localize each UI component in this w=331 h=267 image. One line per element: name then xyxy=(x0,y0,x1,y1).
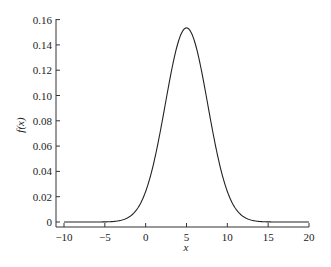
y-tick-label: 0.04 xyxy=(33,165,53,177)
x-tick-label: 10 xyxy=(222,231,234,243)
x-tick-label: 0 xyxy=(143,231,149,243)
y-tick-label: 0 xyxy=(47,216,53,228)
y-tick-label: 0.14 xyxy=(33,39,53,51)
chart: 00.020.040.060.080.100.120.140.16 −10−50… xyxy=(0,0,331,267)
x-tick-label: 20 xyxy=(304,231,316,243)
y-axis-label: f(x) xyxy=(14,117,27,133)
y-tick-label: 0.06 xyxy=(33,140,53,152)
x-tick-label: −10 xyxy=(55,231,73,243)
y-tick-label: 0.08 xyxy=(33,115,53,127)
x-axis-ticks: −10−505101520 xyxy=(55,223,315,243)
density-curve xyxy=(64,28,309,222)
y-tick-label: 0.16 xyxy=(33,14,53,26)
y-tick-label: 0.10 xyxy=(33,90,53,102)
x-axis-label: x xyxy=(183,241,189,253)
x-tick-label: −5 xyxy=(99,231,111,243)
y-tick-label: 0.02 xyxy=(33,191,52,203)
y-tick-label: 0.12 xyxy=(33,64,52,76)
x-tick-label: 15 xyxy=(263,231,275,243)
